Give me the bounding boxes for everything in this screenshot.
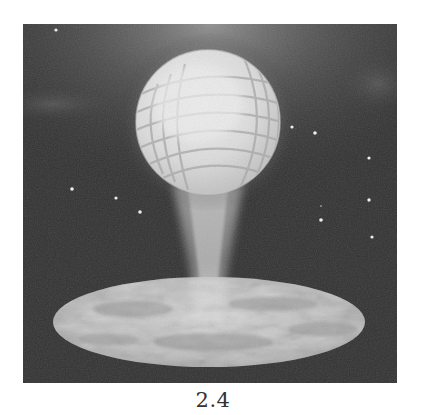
illustration-figure [23,24,397,383]
grain-overlay [23,24,397,383]
globe-beam-disc-illustration [23,24,397,383]
figure-caption: 2.4 [0,387,426,413]
